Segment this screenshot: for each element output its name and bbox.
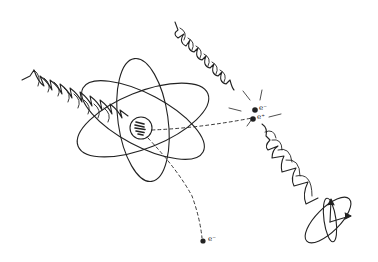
pair-electron-label: e⁻ bbox=[259, 105, 267, 112]
diagram-canvas: e⁻ e⁺ e⁻ bbox=[0, 0, 378, 262]
dashed-tracks bbox=[148, 118, 252, 238]
nucleus bbox=[130, 117, 152, 139]
pair-electron-dot bbox=[252, 107, 258, 113]
incident-wave-top bbox=[175, 22, 234, 90]
ejected-electron-label: e⁻ bbox=[208, 236, 216, 243]
pair-positron-label: e⁺ bbox=[257, 114, 265, 121]
diagram-svg bbox=[0, 0, 378, 262]
incident-wave-left bbox=[22, 70, 128, 122]
pair-positron-dot bbox=[250, 116, 256, 122]
particles bbox=[200, 107, 257, 243]
outgoing-wave bbox=[262, 124, 358, 250]
ejected-electron-dot bbox=[200, 238, 205, 243]
